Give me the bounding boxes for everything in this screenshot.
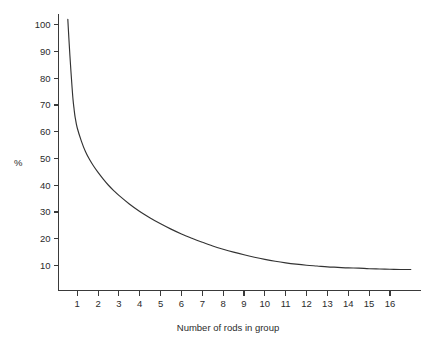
x-tick-label: 13 xyxy=(322,298,333,309)
x-tick-label: 6 xyxy=(179,298,184,309)
x-axis-title: Number of rods in group xyxy=(177,322,279,333)
x-tick-label: 10 xyxy=(260,298,271,309)
x-tick-label: 11 xyxy=(281,298,291,309)
x-axis-group: 12345678910111213141516 xyxy=(58,291,421,310)
data-curve xyxy=(68,19,411,269)
y-tick-labels: 102030405060708090100 xyxy=(35,19,51,271)
x-tick-label: 5 xyxy=(158,298,163,309)
x-tick-marks xyxy=(77,291,390,296)
x-tick-label: 2 xyxy=(95,298,100,309)
x-tick-label: 3 xyxy=(116,298,121,309)
y-axis-title: % xyxy=(14,157,23,168)
x-tick-label: 8 xyxy=(221,298,226,309)
x-tick-label: 4 xyxy=(137,298,142,309)
x-tick-label: 15 xyxy=(364,298,375,309)
y-tick-label: 60 xyxy=(40,126,51,137)
y-tick-label: 80 xyxy=(40,73,51,84)
x-tick-label: 9 xyxy=(241,298,246,309)
line-chart: 102030405060708090100 123456789101112131… xyxy=(0,0,434,344)
y-tick-label: 20 xyxy=(40,233,51,244)
y-tick-label: 70 xyxy=(40,99,51,110)
y-tick-label: 40 xyxy=(40,180,51,191)
chart-page: 102030405060708090100 123456789101112131… xyxy=(0,0,434,344)
x-tick-label: 1 xyxy=(75,298,80,309)
y-tick-label: 30 xyxy=(40,206,51,217)
x-tick-label: 14 xyxy=(343,298,354,309)
y-axis-group: 102030405060708090100 xyxy=(35,14,59,290)
x-tick-labels: 12345678910111213141516 xyxy=(75,298,396,309)
y-tick-label: 50 xyxy=(40,153,51,164)
x-tick-label: 16 xyxy=(385,298,396,309)
y-tick-label: 10 xyxy=(40,260,51,271)
x-tick-label: 7 xyxy=(200,298,205,309)
y-tick-label: 100 xyxy=(35,19,51,30)
y-tick-marks xyxy=(54,25,59,266)
x-tick-label: 12 xyxy=(301,298,312,309)
y-tick-label: 90 xyxy=(40,46,51,57)
